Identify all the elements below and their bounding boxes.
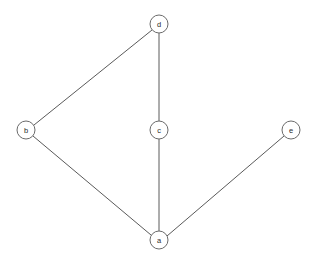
- node-circle-d[interactable]: [150, 15, 168, 33]
- node-circle-c[interactable]: [150, 121, 168, 139]
- graph-edge-b-d: [34, 30, 152, 125]
- graph-node-e[interactable]: e: [282, 121, 300, 139]
- node-circle-e[interactable]: [282, 121, 300, 139]
- node-circle-a[interactable]: [150, 231, 168, 249]
- graph-edge-a-e: [167, 136, 284, 236]
- node-circle-b[interactable]: [17, 121, 35, 139]
- graph-node-c[interactable]: c: [150, 121, 168, 139]
- graph-node-a[interactable]: a: [150, 231, 168, 249]
- graph-node-d[interactable]: d: [150, 15, 168, 33]
- graph-svg: dbcea: [0, 0, 314, 264]
- graph-node-b[interactable]: b: [17, 121, 35, 139]
- graph-canvas: dbcea: [0, 0, 314, 264]
- graph-edge-b-a: [33, 136, 151, 235]
